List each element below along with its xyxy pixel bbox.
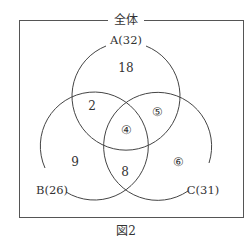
region-a-only: 18 (118, 62, 133, 74)
region-b-only: 9 (71, 156, 79, 168)
set-b-label: B(26) (36, 185, 68, 197)
region-a-c: ⑤ (152, 106, 163, 118)
region-a-b: 2 (88, 100, 96, 112)
set-a-label: A(32) (110, 35, 142, 47)
region-b-c: 8 (121, 166, 129, 178)
region-c-only: ⑥ (173, 156, 184, 168)
universe-label: 全体 (108, 14, 144, 26)
set-c-label: C(31) (187, 185, 219, 197)
region-a-b-c: ④ (121, 124, 132, 136)
figure-caption: 図2 (116, 225, 136, 237)
